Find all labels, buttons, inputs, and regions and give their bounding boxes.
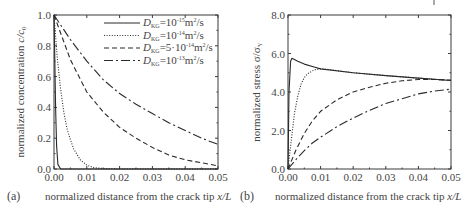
panel-b-stress-chart: 0.000.010.020.030.040.05 0.02.04.06.08.0… [240, 9, 461, 203]
x-tick-label: 0.05 [208, 171, 228, 183]
y-axis-label-a: normalized concentration c/c0 [14, 26, 28, 158]
x-axis-label-b: normalized distance from the crack tip x… [275, 190, 461, 202]
x-tick-label: 0.02 [344, 171, 363, 183]
x-tick-label: 0.04 [176, 171, 196, 183]
panel-label-a: (a) [7, 189, 20, 203]
y-axis-label-b: normalized stress σ/σY [250, 42, 264, 141]
x-tick-label: 0.05 [441, 171, 461, 183]
y-tick-label: 8.0 [271, 9, 285, 21]
y-tick-label: 6.0 [271, 48, 285, 60]
y-tick-label: 0.0 [271, 163, 285, 175]
legend-a: DKG=10-15m2/sDKG=10-14m2/sDKG=5·10-14m2/… [104, 16, 213, 67]
y-tick-label: 0.0 [37, 163, 51, 175]
legend-entry: DKG=10-13m2/s [142, 54, 204, 67]
figure: 0.000.010.020.030.040.05 0.00.20.40.60.8… [0, 0, 474, 211]
y-tick-label: 2.0 [271, 125, 285, 137]
y-tick-label: 4.0 [271, 86, 285, 98]
panel-a-concentration-chart: 0.000.010.020.030.040.05 0.00.20.40.60.8… [7, 9, 231, 203]
y-tick-label: 0.4 [37, 101, 51, 113]
x-axis-ticks-b: 0.000.010.020.030.040.05 [278, 15, 461, 183]
data-lines-b [288, 58, 451, 169]
y-axis-ticks-b: 0.02.04.06.08.0 [271, 9, 451, 175]
y-tick-label: 0.6 [37, 71, 51, 83]
legend-entry: DKG=10-14m2/s [142, 29, 204, 42]
x-tick-label: 0.03 [143, 171, 163, 183]
x-axis-label-a: normalized distance from the crack tip x… [45, 190, 231, 202]
series-line [288, 69, 451, 169]
legend-entry: DKG=5·10-14m2/s [142, 41, 213, 54]
x-tick-label: 0.03 [376, 171, 396, 183]
x-tick-label: 0.01 [311, 171, 330, 183]
x-tick-label: 0.04 [409, 171, 429, 183]
panel-label-b: (b) [240, 189, 254, 203]
series-line [288, 58, 451, 169]
x-tick-label: 0.01 [77, 171, 96, 183]
x-tick-label: 0.02 [110, 171, 129, 183]
series-line [288, 89, 451, 169]
y-tick-label: 0.8 [37, 40, 51, 52]
legend-entry: DKG=10-15m2/s [142, 16, 204, 29]
y-tick-label: 1.0 [37, 9, 51, 21]
y-tick-label: 0.2 [37, 132, 51, 144]
